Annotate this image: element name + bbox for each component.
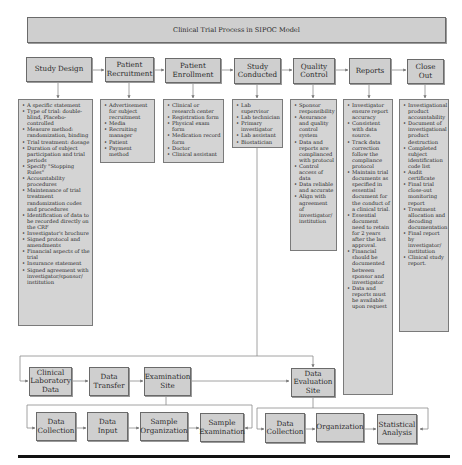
stage-quality-control: Quality Control: [293, 58, 335, 84]
list-item: Signed agreement with investigator/spons…: [27, 267, 90, 285]
list-item: Clinical or research center: [172, 102, 221, 114]
list-item: Sponsor responsibility: [299, 102, 334, 114]
list-item: Accountability procedures: [27, 175, 90, 187]
list-item: Recruiting manager: [109, 126, 152, 138]
list-patient-recruitment: Advertisement for subject recruitment Me…: [100, 99, 155, 163]
box-data-transfer: Data Transfer: [89, 367, 129, 396]
list-study-conducted: Lab supervisor Lab technician Primary in…: [232, 99, 283, 148]
list-item: Payment method: [109, 145, 152, 157]
box-data-evaluation-site: Data Evaluation Site: [291, 368, 335, 397]
list-item: Completed subject identification code li…: [408, 145, 446, 169]
diagram-title: Clinical Trial Process in SIPOC Model: [27, 17, 446, 43]
list-item: Type of trial: double-blind, Placebo-con…: [27, 108, 90, 126]
list-item: Primary investigator: [241, 120, 280, 132]
list-item: Investigational product accountability: [408, 102, 446, 120]
list-item: Final report by investigator/ institutio…: [408, 230, 446, 254]
stage-study-design: Study Design: [26, 57, 92, 82]
list-reports: Investigator ensure report accuracy Cons…: [343, 99, 393, 395]
box-examination-site: Examination Site: [144, 367, 191, 396]
list-quality-control: Sponsor responsibility Assurance and qua…: [290, 99, 337, 251]
box-sample-organization: Sample Organization: [140, 412, 188, 441]
list-item: Signed protocol and amendments: [27, 236, 90, 248]
list-item: Maintenance of trial treatment randomiza…: [27, 187, 90, 211]
list-item: Specify "Stopping Rules": [27, 163, 90, 175]
list-item: Data and reports must be available upon …: [352, 285, 390, 309]
list-item: Consistent with data source.: [352, 120, 390, 138]
box-data-collection-left: Data Collection: [36, 412, 76, 441]
list-item: Advertisement for subject recruitment: [109, 102, 152, 120]
list-item: Align with agreement of investigator/ in…: [299, 193, 334, 223]
list-item: Clinical assistant: [172, 151, 221, 157]
stage-patient-enrollment: Patient Enrollment: [165, 58, 221, 83]
list-item: Physical exam form: [172, 120, 221, 132]
list-item: Data and reports are complianced with pr…: [299, 139, 334, 163]
box-sample-examination: Sample Examination: [200, 413, 244, 442]
bottom-rule: [18, 455, 450, 458]
list-item: Lab supervisor: [241, 102, 280, 114]
list-item: Document of investigational product dest…: [408, 120, 446, 144]
stage-patient-recruitment: Patient Recruitment: [105, 57, 154, 82]
list-item: Investigator ensure report accuracy: [352, 102, 390, 120]
box-organization: Organization: [316, 413, 364, 442]
list-patient-enrollment: Clinical or research center Registration…: [163, 99, 224, 163]
list-item: Assurance and quality control system: [299, 114, 334, 138]
list-item: Essential document need to retain for 2 …: [352, 212, 390, 249]
box-clinical-laboratory-data: Clinical Laboratory Data: [29, 367, 72, 396]
box-data-collection-right: Data Collection: [265, 413, 305, 443]
list-item: Financial aspects of the trial: [27, 248, 90, 260]
box-statistical-analysis: Statistical Analysis: [377, 414, 417, 444]
list-item: Duration of subject participation and tr…: [27, 145, 90, 163]
list-item: Financial should be documented between s…: [352, 248, 390, 285]
list-item: Biostatician: [241, 139, 280, 145]
stage-reports: Reports: [349, 58, 391, 84]
list-item: Measure method: randomization, binding: [27, 126, 90, 138]
list-close-out: Investigational product accountability D…: [399, 99, 449, 332]
box-data-input: Data Input: [87, 412, 128, 441]
list-item: Clinical study report.: [408, 254, 446, 266]
stage-close-out: Close Out: [407, 59, 444, 84]
list-item: Identification of data to be recorded di…: [27, 212, 90, 230]
list-study-design: A specific statement Type of trial: doub…: [18, 99, 93, 326]
list-item: Control access of data: [299, 163, 334, 181]
list-item: Maintain trial documents as specified in…: [352, 169, 390, 212]
list-item: Track data correction follow the complia…: [352, 139, 390, 169]
list-item: Audit certificate: [408, 169, 446, 181]
list-item: Medication record form: [172, 132, 221, 144]
list-item: Data reliable and accurate: [299, 181, 334, 193]
stage-study-conducted: Study Conducted: [234, 58, 281, 84]
list-item: Treatment allocation and decoding docume…: [408, 206, 446, 230]
list-item: Final trial close-out monitoring report: [408, 181, 446, 205]
